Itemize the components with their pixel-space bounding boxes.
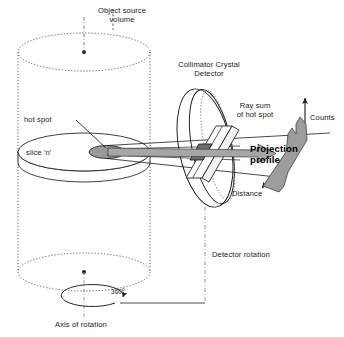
distance-axis-label: Distance — [232, 189, 262, 198]
detector-rotation-line — [120, 207, 205, 303]
figure-canvas: Object source volume Collimator Crystal … — [0, 0, 344, 337]
diagram-artwork — [0, 0, 344, 337]
axis-of-rotation-label: Axis of rotation — [55, 320, 107, 329]
degree-symbol: o — [122, 287, 125, 292]
rotation-degrees-label: 360o — [111, 285, 125, 296]
collimator-crystal-detector-label: Collimator Crystal Detector — [156, 60, 262, 78]
detector-rotation-label: Detector rotation — [212, 250, 270, 259]
hot-spot-label: hot spot — [24, 115, 52, 124]
rotation-degrees-value: 360 — [111, 288, 122, 295]
counts-axis-label: Counts — [310, 113, 335, 122]
object-source-volume-label: Object source volume — [84, 6, 160, 24]
ray-sum-of-hot-spot-label: Ray sum of hot spot — [224, 101, 286, 119]
slice-n-label: slice 'n' — [26, 148, 51, 157]
slice-disc — [18, 133, 150, 182]
projection-profile-label: Projection profile — [250, 143, 310, 165]
